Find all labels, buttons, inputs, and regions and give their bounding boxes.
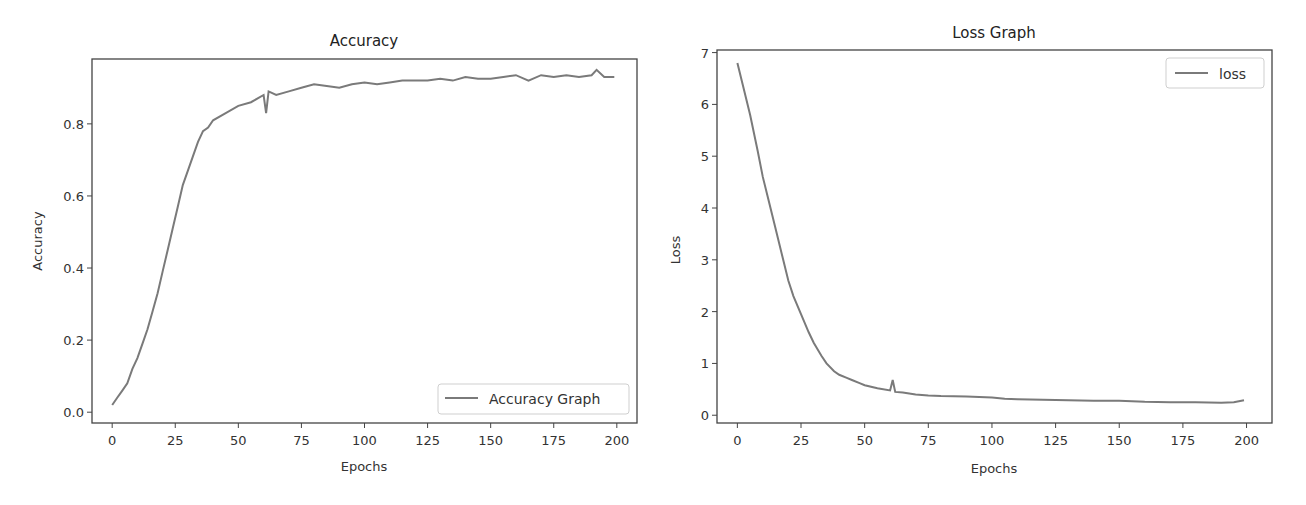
y-tick-label: 3 (701, 253, 709, 268)
x-tick-label: 175 (541, 433, 566, 448)
figure: Accuracy 0.00.20.40.60.8 025507510012515… (0, 0, 1306, 505)
x-tick-label: 150 (1107, 433, 1132, 448)
legend-label: Accuracy Graph (489, 391, 600, 407)
plot-area (717, 50, 1272, 423)
y-tick-label: 0.8 (63, 117, 84, 132)
x-tick-label: 200 (1234, 433, 1259, 448)
x-tick-label: 125 (415, 433, 440, 448)
x-tick-label: 50 (230, 433, 247, 448)
legend: Accuracy Graph (438, 384, 629, 414)
y-tick-label: 1 (701, 356, 709, 371)
x-tick-label: 25 (793, 433, 810, 448)
x-axis-label: Epochs (341, 459, 388, 474)
x-tick-label: 125 (1043, 433, 1068, 448)
y-tick-label: 2 (701, 305, 709, 320)
chart-title: Accuracy (330, 32, 399, 50)
x-tick-label: 75 (920, 433, 937, 448)
plot-area (92, 59, 637, 423)
legend: loss (1166, 58, 1264, 88)
accuracy-chart: Accuracy 0.00.20.40.60.8 025507510012515… (30, 32, 637, 474)
x-tick-label: 0 (733, 433, 741, 448)
x-tick-label: 100 (980, 433, 1005, 448)
x-tick-label: 25 (167, 433, 184, 448)
y-axis-label: Accuracy (30, 211, 45, 271)
x-axis-label: Epochs (971, 461, 1018, 476)
y-tick-label: 0.0 (63, 405, 84, 420)
y-tick-label: 5 (701, 149, 709, 164)
x-axis-ticks: 0255075100125150175200 (733, 423, 1259, 448)
x-tick-label: 200 (604, 433, 629, 448)
y-tick-label: 6 (701, 97, 709, 112)
y-axis-label: Loss (668, 236, 683, 265)
x-tick-label: 75 (293, 433, 310, 448)
x-tick-label: 150 (478, 433, 503, 448)
y-tick-label: 0.2 (63, 333, 84, 348)
y-tick-label: 0.6 (63, 189, 84, 204)
x-tick-label: 0 (108, 433, 116, 448)
y-tick-label: 0.4 (63, 261, 84, 276)
x-tick-label: 175 (1170, 433, 1195, 448)
y-tick-label: 0 (701, 408, 709, 423)
x-tick-label: 50 (856, 433, 873, 448)
y-tick-label: 4 (701, 201, 709, 216)
legend-label: loss (1219, 66, 1246, 82)
y-axis-ticks: 01234567 (701, 46, 717, 424)
y-axis-ticks: 0.00.20.40.60.8 (63, 117, 92, 420)
chart-title: Loss Graph (952, 24, 1036, 42)
x-tick-label: 100 (352, 433, 377, 448)
y-tick-label: 7 (701, 46, 709, 61)
loss-chart: Loss Graph 01234567 02550751001251501752… (668, 24, 1272, 476)
x-axis-ticks: 0255075100125150175200 (108, 423, 629, 448)
